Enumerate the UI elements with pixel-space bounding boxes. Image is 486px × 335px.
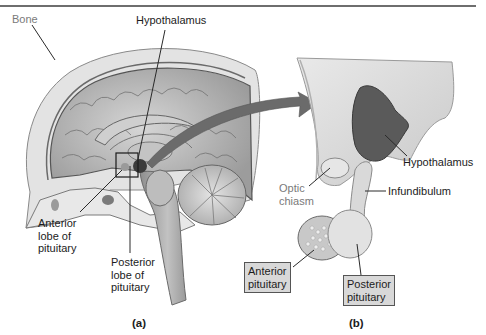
label-line: chiasm [279, 195, 314, 208]
label-line: Anterior [248, 265, 287, 278]
label-line: pituitary [111, 281, 155, 294]
label-box-posterior-pituitary: Posterior pituitary [343, 275, 395, 306]
optic-chiasm [321, 158, 349, 178]
label-posterior-lobe: Posterior lobe of pituitary [111, 256, 155, 294]
label-hypothalamus-a: Hypothalamus [136, 14, 206, 27]
label-line: Posterior [111, 256, 155, 269]
pituitary-gland [298, 210, 372, 260]
label-line: Optic [279, 182, 314, 195]
label-line: Posterior [347, 278, 391, 291]
label-bone: Bone [12, 13, 38, 26]
panel-caption-a: (a) [132, 317, 146, 329]
pons [146, 170, 174, 206]
label-line: pituitary [347, 291, 391, 304]
cerebellum [178, 165, 246, 225]
label-line: lobe of [111, 269, 155, 282]
label-line: pituitary [38, 242, 77, 255]
label-optic-chiasm: Optic chiasm [279, 182, 314, 207]
label-anterior-lobe: Anterior lobe of pituitary [38, 217, 77, 255]
label-line: lobe of [38, 230, 77, 243]
label-infundibulum: Infundibulum [388, 185, 451, 198]
label-hypothalamus-b: Hypothalamus [403, 156, 473, 169]
panel-caption-b: (b) [349, 317, 364, 329]
label-line: Anterior [38, 217, 77, 230]
label-box-anterior-pituitary: Anterior pituitary [244, 262, 291, 293]
hypothalamus-region [133, 159, 147, 173]
label-line: pituitary [248, 278, 287, 291]
